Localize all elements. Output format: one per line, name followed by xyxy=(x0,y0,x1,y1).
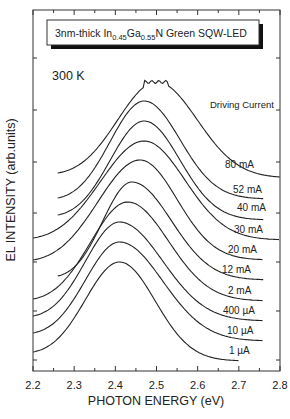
curve-label: 80 mA xyxy=(225,159,254,170)
el-spectra-chart: 3nm-thick In0.45Ga0.55N Green SQW-LED 30… xyxy=(0,0,290,419)
curve-label: 400 µA xyxy=(223,305,255,316)
svg-text:2.6: 2.6 xyxy=(190,379,205,391)
curve-label: 40 mA xyxy=(237,202,266,213)
spectrum-curve xyxy=(33,262,239,361)
svg-text:2.8: 2.8 xyxy=(272,379,287,391)
svg-text:2.3: 2.3 xyxy=(67,379,82,391)
y-axis-label: EL INTENSITY (arb.units) xyxy=(4,118,18,261)
curve-label: 12 mA xyxy=(222,264,251,275)
curve-label: 20 mA xyxy=(228,244,257,255)
curve-label: 2 mA xyxy=(228,285,252,296)
x-axis-label: PHOTON ENERGY (eV) xyxy=(88,394,224,408)
curve-label: 10 µA xyxy=(227,325,254,336)
svg-text:2.4: 2.4 xyxy=(108,379,123,391)
spectra-curves xyxy=(33,81,280,361)
legend-header: Driving Current xyxy=(210,99,274,110)
curve-label: 30 mA xyxy=(234,224,263,235)
x-tick-labels: 2.22.32.42.52.62.72.8 xyxy=(25,379,287,391)
curve-label: 1 µA xyxy=(229,345,250,356)
svg-text:2.2: 2.2 xyxy=(25,379,40,391)
curve-label: 52 mA xyxy=(233,184,262,195)
svg-text:2.5: 2.5 xyxy=(149,379,164,391)
svg-text:2.7: 2.7 xyxy=(231,379,246,391)
temperature-annotation: 300 K xyxy=(52,69,85,83)
